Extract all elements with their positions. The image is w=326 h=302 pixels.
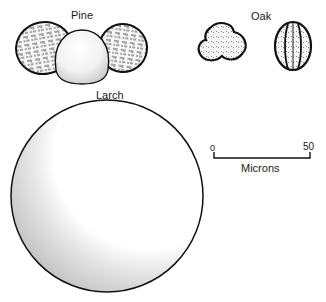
oak-pollen-polar-icon	[199, 23, 246, 60]
scale-unit-label: Microns	[241, 162, 280, 174]
pine-label: Pine	[71, 9, 93, 21]
pollen-diagram	[0, 0, 326, 302]
oak-pollen-equatorial-icon	[275, 22, 311, 70]
scale-end-label: 50	[303, 141, 314, 153]
larch-label: Larch	[96, 89, 124, 101]
scale-start-label: 0	[210, 142, 215, 154]
pine-pollen-icon	[12, 18, 150, 84]
larch-pollen-icon	[11, 100, 203, 292]
scale-bar	[214, 152, 310, 158]
oak-label: Oak	[251, 10, 271, 22]
